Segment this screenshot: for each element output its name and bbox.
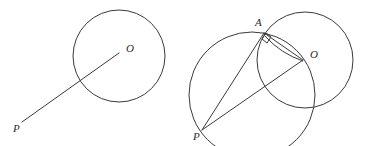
panel-left: O P <box>12 10 165 134</box>
left-label-O: O <box>126 42 134 54</box>
left-circle-O <box>73 10 165 102</box>
right-arc-AO <box>265 36 303 61</box>
left-label-P: P <box>12 122 20 134</box>
right-segment-AO <box>264 33 303 60</box>
geometry-canvas: O P A O P <box>0 0 367 146</box>
right-label-O: O <box>310 48 318 60</box>
right-segment-PA <box>202 33 264 130</box>
right-label-A: A <box>254 16 262 28</box>
left-segment-PO <box>22 53 119 122</box>
right-label-P: P <box>192 130 200 142</box>
right-circle-on-diameter-PO <box>189 32 315 146</box>
geometry-figure: O P A O P <box>0 0 367 146</box>
right-segment-PO <box>202 60 303 130</box>
panel-right: A O P <box>189 12 353 146</box>
